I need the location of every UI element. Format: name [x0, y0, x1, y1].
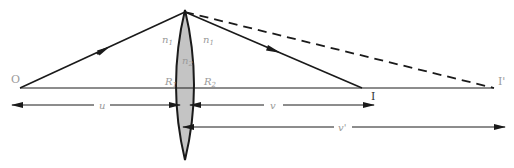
diagram-canvas: O I I' n1 n1 n2 R1 R2 u v v' [0, 0, 514, 168]
object-label: O [11, 73, 20, 86]
u-distance-label: u [99, 100, 105, 111]
ray-direction-arrow-icon [97, 47, 110, 56]
virtual-ray-dashed [185, 12, 494, 88]
v-prime-distance-label: v' [338, 122, 346, 133]
virtual-image-label: I' [498, 75, 505, 88]
radius-right-label: R2 [203, 76, 217, 89]
lens-ray-diagram: O I I' n1 n1 n2 R1 R2 u v v' [0, 0, 514, 168]
refracted-ray-arrow-icon [266, 45, 281, 53]
radius-left-label: R1 [164, 76, 177, 89]
medium-left-label: n1 [162, 34, 173, 47]
medium-right-label: n1 [203, 34, 214, 47]
v-distance-label: v [270, 100, 276, 111]
image-label: I [371, 90, 375, 103]
biconvex-lens [176, 10, 194, 160]
